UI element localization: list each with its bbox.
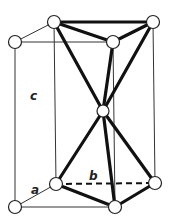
dashed-edge-bottom-back-left-to-bottom-back-right — [56, 183, 155, 184]
crystal-structure-diagram: c a b — [0, 0, 172, 222]
atom-bottom-back-right — [149, 177, 162, 190]
cell-edge-top-back-left-to-bottom-back-left — [54, 22, 56, 184]
atom-top-front-mid — [107, 36, 120, 49]
atom-top-back-left — [48, 16, 61, 29]
atom-bottom-front-left — [9, 201, 22, 214]
atom-top-back-right — [147, 16, 160, 29]
bond-bottom-back-left-to-bottom-front-mid — [56, 184, 115, 207]
unit-cell-edges — [15, 22, 155, 207]
axis-label-b: b — [89, 169, 98, 183]
dashed-edge-b — [56, 183, 155, 184]
atom-top-front-left — [9, 36, 22, 49]
atom-bottom-back-left — [50, 178, 63, 191]
atom-center — [97, 105, 109, 117]
cell-edge-top-back-right-to-bottom-back-right — [153, 22, 155, 183]
atom-bottom-front-mid — [109, 201, 122, 214]
axis-label-a: a — [31, 183, 39, 197]
axis-label-c: c — [30, 89, 37, 103]
